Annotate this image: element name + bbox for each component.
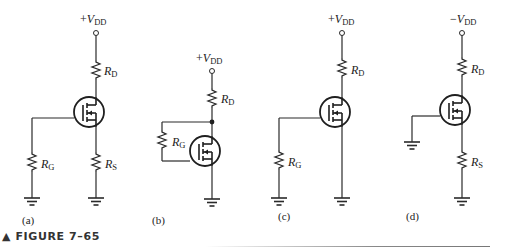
resistor-rg-a bbox=[28, 152, 36, 172]
ground-icon bbox=[271, 198, 287, 205]
resistor-rd-b bbox=[208, 88, 216, 108]
mosfet-a bbox=[74, 97, 104, 127]
rs-label-d: RS bbox=[470, 155, 483, 170]
resistor-rd-c bbox=[338, 58, 346, 78]
rd-label-b: RD bbox=[220, 92, 234, 107]
resistor-rd-a bbox=[92, 60, 100, 80]
resistor-rs-d bbox=[458, 150, 466, 170]
mosfet-b bbox=[190, 136, 220, 166]
supply-label-b: +VDD bbox=[196, 51, 222, 66]
vdd-terminal-d bbox=[460, 31, 465, 36]
supply-label-d: −VDD bbox=[450, 12, 476, 27]
circuit-label-d: (d) bbox=[406, 210, 419, 223]
mosfet-d bbox=[440, 95, 470, 125]
ground-icon bbox=[204, 199, 220, 206]
vdd-terminal-a bbox=[94, 31, 99, 36]
caption-rule bbox=[205, 246, 490, 247]
ground-icon bbox=[88, 198, 104, 205]
circuit-b: +VDD RD RG (b) bbox=[152, 51, 234, 227]
triangle-marker-icon: ▲ bbox=[2, 230, 11, 243]
circuit-label-a: (a) bbox=[22, 214, 35, 227]
figure-7-65-schematics: +VDD RD RG RS (a) +VDD RD RG bbox=[0, 0, 505, 248]
rd-label-c: RD bbox=[350, 63, 364, 78]
figure-caption: ▲ FIGURE 7–65 bbox=[2, 230, 100, 243]
circuit-d: −VDD RD RS (d) bbox=[404, 12, 484, 223]
resistor-rg-b bbox=[158, 130, 166, 150]
ground-icon bbox=[24, 198, 40, 205]
resistor-rd-d bbox=[458, 57, 466, 77]
circuit-a: +VDD RD RG RS (a) bbox=[22, 12, 117, 227]
rg-label-a: RG bbox=[40, 157, 54, 172]
vdd-terminal-b bbox=[210, 69, 215, 74]
rd-label-d: RD bbox=[470, 62, 484, 77]
supply-label-a: +VDD bbox=[80, 12, 106, 27]
ground-icon bbox=[404, 142, 420, 149]
circuit-label-c: (c) bbox=[278, 210, 291, 223]
figure-caption-text: FIGURE 7–65 bbox=[16, 230, 100, 243]
rd-label-a: RD bbox=[103, 64, 117, 79]
vdd-terminal-c bbox=[340, 31, 345, 36]
resistor-rs-a bbox=[92, 152, 100, 172]
circuit-label-b: (b) bbox=[152, 214, 165, 227]
rs-label-a: RS bbox=[104, 157, 117, 172]
circuit-c: +VDD RD RG (c) bbox=[271, 12, 364, 223]
mosfet-c bbox=[320, 97, 350, 127]
supply-label-c: +VDD bbox=[328, 12, 354, 27]
resistor-rg-c bbox=[275, 150, 283, 170]
rg-label-b: RG bbox=[171, 135, 185, 150]
ground-icon bbox=[334, 198, 350, 205]
ground-icon bbox=[454, 198, 470, 205]
rg-label-c: RG bbox=[287, 155, 301, 170]
